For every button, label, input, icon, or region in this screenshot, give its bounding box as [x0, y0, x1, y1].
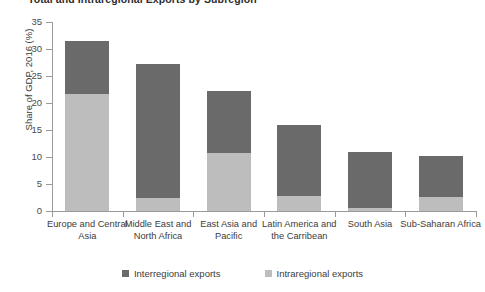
x-tick [405, 211, 406, 217]
bar-segment-intraregional[interactable] [419, 197, 463, 211]
legend-swatch-icon [265, 270, 272, 277]
y-tick-label: 15 [31, 124, 42, 135]
y-tick-label: 30 [31, 43, 42, 54]
category-label: Sub-Saharan Africa [399, 219, 483, 231]
y-tick-label: 25 [31, 70, 42, 81]
legend-item[interactable]: Intraregional exports [265, 268, 364, 279]
legend-item[interactable]: Interregional exports [122, 268, 221, 279]
legend-label: Interregional exports [134, 268, 221, 279]
bar-segment-intraregional[interactable] [348, 208, 392, 211]
plot-area [52, 22, 476, 211]
y-tick-label: 35 [31, 16, 42, 27]
legend-swatch-icon [122, 270, 129, 277]
bar-segment-interregional[interactable] [348, 152, 392, 208]
x-tick [52, 211, 53, 217]
chart-container: Total and Intraregional Exports by Subre… [0, 0, 485, 292]
x-tick [476, 211, 477, 217]
bar-segment-intraregional[interactable] [207, 153, 251, 211]
x-tick [264, 211, 265, 217]
x-tick [335, 211, 336, 217]
bar-segment-intraregional[interactable] [277, 196, 321, 211]
bar-segment-intraregional[interactable] [136, 198, 180, 212]
y-tick-label: 10 [31, 151, 42, 162]
bar-segment-interregional[interactable] [419, 156, 463, 197]
bar-segment-interregional[interactable] [65, 41, 109, 94]
bar-segment-interregional[interactable] [277, 125, 321, 197]
y-tick-label: 20 [31, 97, 42, 108]
x-tick [193, 211, 194, 217]
legend-label: Intraregional exports [277, 268, 364, 279]
y-tick-label: 5 [37, 178, 42, 189]
x-tick [123, 211, 124, 217]
y-tick-label: 0 [37, 205, 42, 216]
bar-segment-interregional[interactable] [207, 91, 251, 153]
chart-legend: Interregional exportsIntraregional expor… [0, 268, 485, 279]
bar-segment-intraregional[interactable] [65, 94, 109, 211]
chart-title: Total and Intraregional Exports by Subre… [28, 0, 257, 5]
bar-segment-interregional[interactable] [136, 64, 180, 198]
